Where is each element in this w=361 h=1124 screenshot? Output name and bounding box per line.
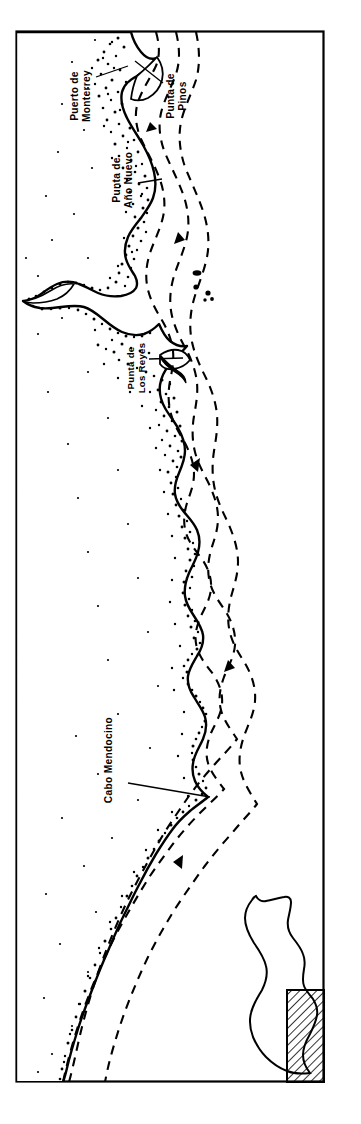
inset-study-area-highlight	[287, 990, 324, 1082]
label-cabo-mendocino: Cabo Mendocino	[103, 717, 114, 803]
map-canvas: Puerto de Monterrey Punta de Pinos Punta…	[0, 0, 361, 1124]
label-punta-de-ano-nuevo: Punta de Año Nuevo	[111, 152, 134, 208]
island-1	[193, 270, 202, 276]
label-puerto-de-monterrey: Puerto de Monterrey	[69, 70, 92, 122]
label-punta-de-pinos-line2: Pinos	[177, 81, 188, 110]
label-puerto-de-monterrey-line1: Puerto de	[69, 71, 80, 121]
label-punta-de-ano-nuevo-line2: Año Nuevo	[123, 152, 134, 208]
label-punta-de-ano-nuevo-line1: Punta de	[111, 157, 122, 202]
label-punta-de-los-reyes: Punta de Los Reyes	[125, 343, 147, 394]
label-cabo-mendocino-line1: Cabo Mendocino	[103, 717, 114, 803]
label-punta-de-los-reyes-line2: Los Reyes	[136, 343, 147, 394]
island-5	[203, 298, 206, 301]
label-puerto-de-monterrey-line2: Monterrey	[81, 70, 92, 122]
coastal-current-map-figure: Puerto de Monterrey Punta de Pinos Punta…	[0, 0, 361, 1124]
label-punta-de-los-reyes-line1: Punta de	[125, 347, 136, 390]
island-4	[210, 297, 214, 301]
label-punta-de-pinos-line1: Punta de	[165, 73, 176, 118]
island-2	[193, 284, 198, 289]
island-3	[205, 290, 210, 295]
